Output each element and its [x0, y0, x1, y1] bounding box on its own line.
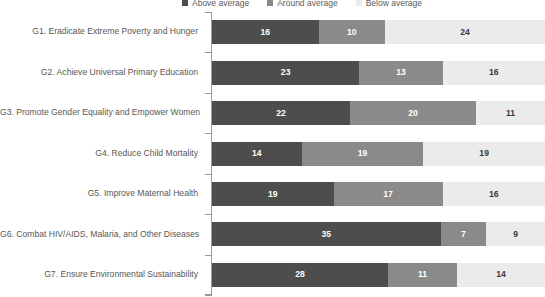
stacked-bar[interactable]: 231316 [212, 61, 545, 85]
bar-segment[interactable]: 20 [350, 101, 476, 125]
bar-segment-value: 10 [347, 28, 357, 37]
bar-segment[interactable]: 9 [486, 222, 545, 246]
legend-item[interactable]: Below average [356, 0, 422, 7]
bar-segment[interactable]: 19 [302, 142, 424, 166]
legend-item-label: Below average [366, 0, 422, 7]
axis-tick [205, 133, 212, 134]
category-label: G7. Ensure Environmental Sustainability [0, 270, 207, 279]
bar-segment-value: 7 [461, 230, 466, 239]
bar-segment-value: 16 [260, 28, 270, 37]
bar-segment[interactable]: 24 [385, 20, 545, 44]
bar-segment[interactable]: 16 [443, 61, 545, 85]
axis-tick [205, 174, 212, 175]
category-label: G6. Combat HIV/AIDS, Malaria, and Other … [0, 230, 207, 239]
bar-segment[interactable]: 23 [212, 61, 359, 85]
category-label: G1. Eradicate Extreme Poverty and Hunger [0, 27, 207, 36]
bar-segment[interactable]: 11 [476, 101, 545, 125]
bar-segment-value: 28 [295, 270, 305, 279]
bar-segment[interactable]: 16 [212, 20, 319, 44]
bar-segment[interactable]: 17 [334, 182, 443, 206]
legend-item-label: Around average [277, 0, 338, 7]
legend-item-label: Above average [192, 0, 249, 7]
stacked-bar[interactable]: 141919 [212, 142, 545, 166]
bar-segment-value: 14 [496, 270, 506, 279]
category-label: G4. Reduce Child Mortality [0, 149, 207, 158]
axis-tick [205, 52, 212, 53]
bar-segment[interactable]: 35 [212, 222, 441, 246]
bar-segment[interactable]: 13 [359, 61, 442, 85]
legend-swatch-icon [267, 0, 273, 6]
category-label: G5. Improve Maternal Health [0, 189, 207, 198]
bar-segment-value: 13 [396, 68, 406, 77]
bar-segment-value: 23 [281, 68, 291, 77]
legend-swatch-icon [182, 0, 188, 6]
bar-segment[interactable]: 19 [212, 182, 334, 206]
axis-tick [205, 295, 212, 296]
bar-segment-value: 16 [489, 190, 499, 199]
bar-segment-value: 11 [418, 270, 427, 279]
legend-item[interactable]: Above average [182, 0, 249, 7]
bar-segment[interactable]: 7 [441, 222, 487, 246]
stacked-bar[interactable]: 161024 [212, 20, 545, 44]
axis-tick [205, 93, 212, 94]
stacked-bar[interactable]: 3579 [212, 222, 545, 246]
bar-segment-value: 19 [479, 149, 489, 158]
bar-segment[interactable]: 14 [457, 263, 545, 287]
bar-segment-value: 24 [460, 28, 470, 37]
bar-segment-value: 19 [268, 190, 278, 199]
bar-segment-value: 17 [383, 190, 393, 199]
bar-segment-value: 16 [489, 68, 499, 77]
bar-segment-value: 20 [408, 109, 418, 118]
axis-tick [205, 255, 212, 256]
stacked-bar[interactable]: 191716 [212, 182, 545, 206]
bar-segment-value: 35 [321, 230, 331, 239]
bar-rows: G1. Eradicate Extreme Poverty and Hunger… [0, 10, 545, 297]
stacked-bar[interactable]: 222011 [212, 101, 545, 125]
stacked-bar[interactable]: 281114 [212, 263, 545, 287]
bar-segment-value: 9 [513, 230, 518, 239]
bar-segment-value: 22 [276, 109, 286, 118]
axis-tick [205, 214, 212, 215]
bar-segment[interactable]: 10 [319, 20, 386, 44]
chart-legend: Above averageAround averageBelow average [182, 0, 422, 10]
bar-segment[interactable]: 28 [212, 263, 388, 287]
stacked-bar-chart: Above averageAround averageBelow average… [0, 0, 545, 297]
bar-segment[interactable]: 11 [388, 263, 457, 287]
bar-segment[interactable]: 14 [212, 142, 302, 166]
bar-segment[interactable]: 22 [212, 101, 350, 125]
legend-swatch-icon [356, 0, 362, 6]
bar-segment[interactable]: 16 [443, 182, 545, 206]
legend-item[interactable]: Around average [267, 0, 338, 7]
category-label: G2. Achieve Universal Primary Education [0, 68, 207, 77]
bar-segment-value: 11 [506, 109, 515, 118]
bar-segment-value: 19 [358, 149, 368, 158]
plot-area: G1. Eradicate Extreme Poverty and Hunger… [0, 10, 545, 297]
bar-segment[interactable]: 19 [423, 142, 545, 166]
category-label: G3. Promote Gender Equality and Empower … [0, 108, 207, 117]
bar-segment-value: 14 [252, 149, 262, 158]
